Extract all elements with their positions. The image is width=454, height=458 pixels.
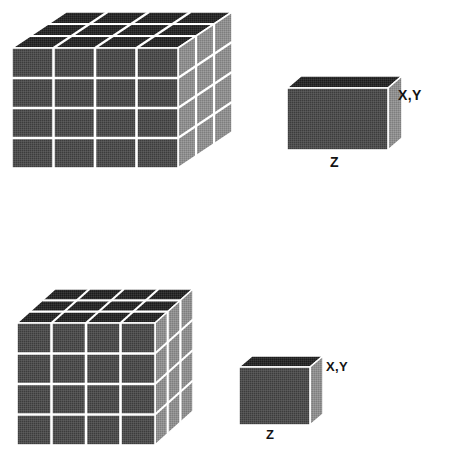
axis-label-xy-top: X,Y xyxy=(398,88,422,102)
unit-front-face xyxy=(239,367,310,425)
voxel-block-isotropic xyxy=(17,289,193,445)
top-panel-graphics xyxy=(0,0,454,229)
unit-top-face xyxy=(287,76,402,88)
axis-label-z-bottom: Z xyxy=(266,428,274,441)
axis-label-xy-bottom: X,Y xyxy=(326,360,348,373)
anisotropic-voxel-panel: X,Y Z xyxy=(0,0,454,229)
unit-voxel-isotropic xyxy=(239,356,323,425)
voxel-anisotropy-figure: X,Y Z xyxy=(0,0,454,458)
isotropic-voxel-panel: X,Y Z xyxy=(0,229,454,458)
bottom-panel-graphics xyxy=(0,229,454,458)
unit-top-face xyxy=(239,356,323,367)
unit-front-face xyxy=(287,88,388,150)
unit-side-face xyxy=(310,356,323,425)
unit-voxel-anisotropic xyxy=(287,76,402,150)
axis-label-z-top: Z xyxy=(330,155,339,169)
voxel-block-anisotropic xyxy=(12,12,232,168)
